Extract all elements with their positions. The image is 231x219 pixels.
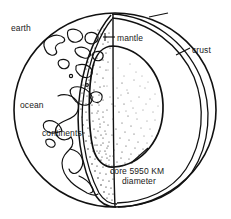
label-crust: crust <box>192 45 211 55</box>
core-leader-line <box>131 148 148 163</box>
earth-cutaway-diagram: earth mantle crust ocean continents core… <box>0 0 231 219</box>
core-stipple <box>94 64 158 167</box>
label-continents: continents <box>42 128 82 138</box>
label-mantle: mantle <box>117 33 143 43</box>
label-core: core 5950 KM diameter <box>110 166 164 186</box>
core-outline <box>89 46 163 167</box>
mantle-stipple <box>80 29 113 201</box>
pole-tick-line <box>149 13 168 17</box>
label-core-line1: core 5950 KM <box>110 166 164 176</box>
label-earth: earth <box>11 23 31 33</box>
coastlines <box>43 29 103 195</box>
label-core-line2: diameter <box>110 176 164 186</box>
label-ocean: ocean <box>20 100 44 110</box>
